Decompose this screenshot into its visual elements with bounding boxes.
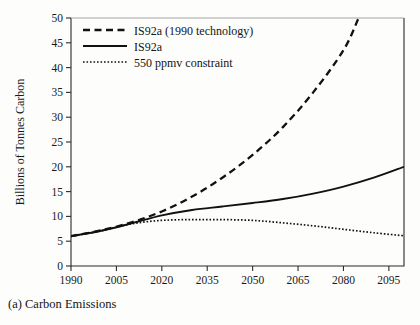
line-chart: 0510152025303540455019902005202020352050… [0,0,420,325]
y-tick-label: 0 [57,260,63,272]
y-tick-label: 40 [52,62,64,74]
legend-label-2: IS92a [134,40,163,54]
y-axis-title: Billions of Tonnes Carbon [13,79,27,206]
y-tick-label: 30 [52,111,64,123]
y-tick-label: 15 [52,186,64,198]
x-tick-label: 2020 [150,274,173,286]
x-tick-label: 2095 [377,274,400,286]
plot-frame [71,18,404,266]
series-line-3 [71,220,404,237]
x-tick-label: 2065 [287,274,310,286]
x-tick-label: 2035 [196,274,219,286]
y-tick-label: 45 [52,37,64,49]
y-tick-label: 35 [52,86,64,98]
y-tick-label: 20 [52,161,64,173]
y-tick-label: 10 [52,210,64,222]
figure-caption: (a) Carbon Emissions [8,297,116,312]
series-line-1 [71,18,359,236]
x-tick-label: 2050 [241,274,264,286]
x-tick-label: 2005 [105,274,128,286]
legend-label-1: IS92a (1990 technology) [134,24,253,38]
legend-label-3: 550 ppmv constraint [134,56,233,70]
y-tick-label: 50 [52,12,64,24]
y-tick-label: 25 [52,136,64,148]
x-tick-label: 1990 [60,274,83,286]
x-tick-label: 2080 [332,274,355,286]
y-tick-label: 5 [57,235,63,247]
figure-carbon-emissions: 0510152025303540455019902005202020352050… [0,0,420,325]
series-line-2 [71,167,404,236]
